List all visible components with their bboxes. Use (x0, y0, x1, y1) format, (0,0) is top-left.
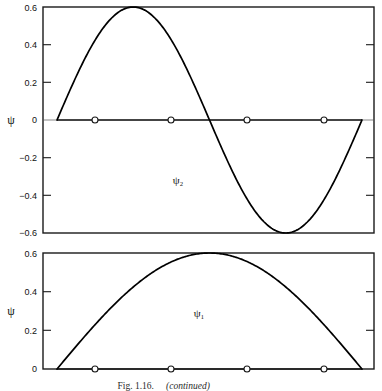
psi-1-ytick-label: 0.4 (24, 287, 37, 297)
psi-1-left-ticks (43, 292, 51, 331)
psi-2-yaxis-label: ψ (7, 113, 15, 127)
caption-suffix: (continued) (166, 381, 210, 391)
node-marker (168, 366, 174, 372)
psi-2-ytick-label: −0.4 (19, 191, 37, 201)
psi-2-ytick-label: −0.2 (19, 153, 37, 163)
node-marker (321, 366, 327, 372)
psi-2-ytick-label: 0 (32, 115, 37, 125)
psi-1-yaxis-label: ψ (7, 304, 15, 318)
psi-2-ytick-label: 0.6 (24, 3, 37, 13)
psi-2-ytick-label: 0.2 (24, 78, 37, 88)
psi-1-curve (57, 253, 362, 369)
psi-1-ytick-label: 0.6 (24, 249, 37, 259)
psi-1-ytick-label: 0 (32, 364, 37, 374)
psi-1-curve-label: ψ₁ (194, 307, 205, 319)
psi-1-panel: 0.6 0.4 0.2 0 ψ ψ₁ (7, 249, 374, 375)
node-marker (321, 117, 327, 123)
psi-1-ytick-label: 0.2 (24, 326, 37, 336)
psi-2-panel: 0.6 0.4 0.2 0 −0.2 −0.4 −0.6 ψ ψ₂ (7, 3, 374, 239)
node-marker (92, 366, 98, 372)
caption-prefix: Fig. 1.16. (118, 381, 154, 391)
figure-container: 0.6 0.4 0.2 0 −0.2 −0.4 −0.6 ψ ψ₂ (0, 0, 382, 391)
node-marker (168, 117, 174, 123)
psi-2-ytick-label: −0.6 (19, 228, 37, 238)
psi-1-plot-frame (43, 253, 374, 369)
psi-2-curve-label: ψ₂ (173, 174, 184, 186)
psi-1-right-ticks (366, 292, 374, 331)
node-marker (244, 117, 250, 123)
node-marker (92, 117, 98, 123)
node-marker (244, 366, 250, 372)
wavefunction-figure: 0.6 0.4 0.2 0 −0.2 −0.4 −0.6 ψ ψ₂ (0, 0, 382, 391)
psi-2-ytick-label: 0.4 (24, 40, 37, 50)
figure-caption: Fig. 1.16. (continued) (118, 381, 210, 391)
